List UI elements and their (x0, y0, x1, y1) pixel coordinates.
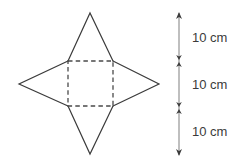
scale-label-segment-2: 10 cm (192, 78, 227, 91)
scale-label-segment-3: 10 cm (192, 125, 227, 138)
scale-label-segment-1: 10 cm (192, 31, 227, 44)
left-triangle (19, 61, 68, 106)
bottom-triangle (68, 106, 113, 154)
square-base (68, 61, 113, 106)
triangle-group (19, 13, 159, 154)
dimension-ruler (176, 12, 182, 156)
figure-root: 10 cm 10 cm 10 cm (0, 0, 246, 163)
right-triangle (113, 61, 159, 106)
top-triangle (68, 13, 113, 61)
